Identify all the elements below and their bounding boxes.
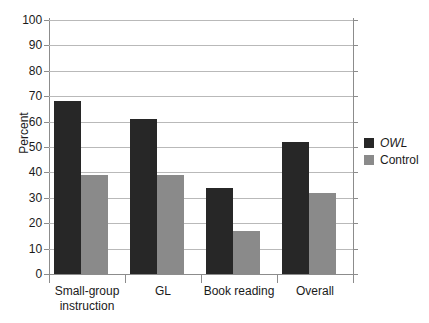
y-axis-tick-labels: 1009080706050403020100 (0, 20, 42, 274)
x-axis-label-3: Overall (269, 284, 361, 299)
y-tick-label-20: 20 (2, 217, 42, 229)
y-tick-right-50 (353, 147, 358, 148)
plot-area (49, 20, 353, 274)
y-tick-label-70: 70 (2, 90, 42, 102)
bar-group (201, 20, 277, 274)
y-tick-label-90: 90 (2, 39, 42, 51)
y-tick-40 (44, 172, 49, 173)
y-tick-label-30: 30 (2, 192, 42, 204)
legend-swatch-owl (364, 138, 374, 148)
y-tick-50 (44, 147, 49, 148)
bar-owl-0 (54, 101, 81, 274)
y-tick-70 (44, 96, 49, 97)
bar-owl-3 (282, 142, 309, 274)
y-tick-80 (44, 71, 49, 72)
x-axis-separator (201, 275, 202, 283)
y-tick-100 (44, 20, 49, 21)
bar-group (125, 20, 201, 274)
y-tick-30 (44, 198, 49, 199)
x-axis-separator (125, 275, 126, 283)
y-tick-10 (44, 249, 49, 250)
y-tick-right-90 (353, 45, 358, 46)
legend-label-control: Control (380, 153, 419, 167)
y-tick-right-80 (353, 71, 358, 72)
y-tick-right-10 (353, 249, 358, 250)
y-tick-label-10: 10 (2, 243, 42, 255)
y-tick-right-60 (353, 122, 358, 123)
bar-control-2 (233, 231, 260, 274)
y-tick-right-40 (353, 172, 358, 173)
y-tick-right-70 (353, 96, 358, 97)
y-tick-label-40: 40 (2, 166, 42, 178)
y-tick-label-0: 0 (2, 268, 42, 280)
x-axis-separator (277, 275, 278, 283)
legend-swatch-control (364, 155, 374, 165)
bar-chart: Percent 1009080706050403020100 Small-gro… (0, 0, 429, 323)
y-tick-right-100 (353, 20, 358, 21)
y-tick-20 (44, 223, 49, 224)
bar-control-1 (157, 175, 184, 274)
y-tick-label-50: 50 (2, 141, 42, 153)
bar-owl-1 (130, 119, 157, 274)
legend: OWL Control (364, 134, 428, 168)
x-axis-separator-origin (49, 275, 50, 283)
y-tick-label-100: 100 (2, 14, 42, 26)
y-tick-60 (44, 122, 49, 123)
legend-label-owl: OWL (380, 136, 407, 150)
y-tick-90 (44, 45, 49, 46)
x-axis-separator (353, 275, 354, 283)
bar-control-3 (309, 193, 336, 274)
bar-group (49, 20, 125, 274)
y-tick-right-20 (353, 223, 358, 224)
y-tick-label-60: 60 (2, 116, 42, 128)
legend-item-control: Control (364, 151, 428, 168)
bar-owl-2 (206, 188, 233, 274)
legend-item-owl: OWL (364, 134, 428, 151)
y-tick-right-30 (353, 198, 358, 199)
bar-control-0 (81, 175, 108, 274)
y-tick-label-80: 80 (2, 65, 42, 77)
bar-group (277, 20, 353, 274)
